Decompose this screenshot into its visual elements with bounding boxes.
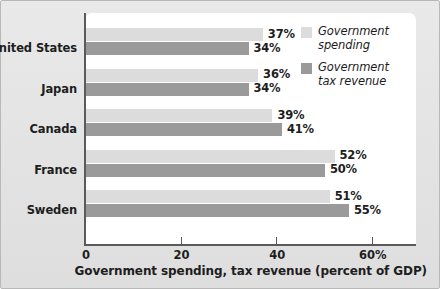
chart-figure: 37%34%36%34%39%41%52%50%51%55% United St… — [0, 0, 440, 289]
bar-spending — [86, 109, 272, 122]
bar-value-revenue: 34% — [254, 82, 281, 95]
axis-tick-mark — [181, 237, 182, 245]
bar-value-spending: 37% — [268, 28, 295, 41]
axis-tick-mark — [372, 237, 373, 245]
bar-spending — [86, 150, 335, 163]
bar-value-revenue: 55% — [354, 204, 381, 217]
bar-value-spending: 51% — [335, 190, 362, 203]
bar-revenue — [86, 164, 325, 177]
axis-tick-label: 40 — [269, 248, 285, 262]
bar-value-spending: 52% — [340, 149, 367, 162]
legend-label: Governmentspending — [318, 25, 389, 52]
legend-label: Governmenttax revenue — [318, 61, 389, 88]
bar-revenue — [86, 42, 249, 55]
legend-item: Governmentspending — [301, 25, 411, 52]
category-label: France — [0, 163, 77, 177]
legend-swatch-icon — [301, 27, 312, 38]
category-label: Sweden — [0, 203, 77, 217]
category-label: Canada — [0, 122, 77, 136]
bar-value-revenue: 34% — [254, 42, 281, 55]
x-axis-title: Government spending, tax revenue (percen… — [1, 264, 427, 278]
axis-tick-label: 20 — [174, 248, 190, 262]
bar-revenue — [86, 204, 349, 217]
chart-legend: GovernmentspendingGovernmenttax revenue — [301, 25, 411, 97]
bar-spending — [86, 69, 258, 82]
category-label: United States — [0, 41, 77, 55]
legend-item: Governmenttax revenue — [301, 61, 411, 88]
axis-tick-label: 60% — [359, 248, 387, 262]
bar-spending — [86, 190, 330, 203]
axis-tick-mark — [276, 237, 277, 245]
bar-revenue — [86, 83, 249, 96]
axis-tick-mark — [85, 237, 86, 245]
bar-revenue — [86, 123, 282, 136]
bar-value-revenue: 41% — [287, 123, 314, 136]
value-axis-line — [84, 244, 416, 246]
category-label: Japan — [0, 82, 77, 96]
bar-value-revenue: 50% — [330, 163, 357, 176]
bar-value-spending: 36% — [263, 68, 290, 81]
legend-swatch-icon — [301, 63, 312, 74]
axis-tick-label: 0 — [82, 248, 90, 262]
bar-value-spending: 39% — [277, 109, 304, 122]
bar-spending — [86, 28, 263, 41]
